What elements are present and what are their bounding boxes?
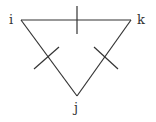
edge-k-j [77, 20, 131, 96]
triangle-diagram: i k j [0, 0, 156, 122]
edge-i-j [21, 20, 77, 96]
tick-mark-k-j [94, 47, 118, 69]
vertex-label-k: k [137, 12, 145, 27]
vertex-label-j: j [72, 100, 78, 115]
vertex-label-i: i [9, 12, 13, 27]
